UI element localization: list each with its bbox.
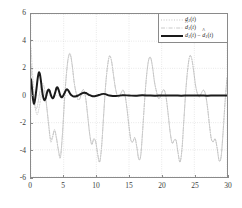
x-tickmark (129, 175, 130, 178)
x-tickmark (228, 175, 229, 178)
x-tickmark (162, 175, 163, 178)
x-tick-label: 30 (216, 182, 240, 190)
y-tickmark (30, 13, 33, 14)
legend-item-error: d1(t) − d1(t) (161, 32, 224, 40)
y-tickmark (30, 123, 33, 124)
x-tick-label: 25 (183, 182, 207, 190)
y-tick-label: -6 (4, 174, 26, 182)
y-tickmark (30, 150, 33, 151)
y-tickmark (30, 178, 33, 179)
x-tickmark (195, 175, 196, 178)
x-tick-label: 5 (51, 182, 75, 190)
y-tickmark (30, 40, 33, 41)
y-tick-label: 0 (4, 92, 26, 100)
y-tick-label: 6 (4, 9, 26, 17)
x-tickmark (63, 175, 64, 178)
series-d1(t)-d1hat(t) (31, 72, 227, 103)
series-d1(t) (31, 48, 227, 162)
y-tickmark (30, 68, 33, 69)
y-tick-label: -2 (4, 119, 26, 127)
y-tick-label: 4 (4, 37, 26, 45)
x-tick-label: 20 (150, 182, 174, 190)
x-tick-label: 0 (18, 182, 42, 190)
chart-legend: d1(t) d1(t) d1(t) − d1(t) (158, 13, 228, 43)
y-tickmark (30, 95, 33, 96)
legend-swatch-solid-icon (161, 32, 183, 40)
x-tick-label: 10 (84, 182, 108, 190)
x-tick-label: 15 (117, 182, 141, 190)
x-tickmark (96, 175, 97, 178)
y-tick-label: 2 (4, 64, 26, 72)
chart-figure: 0510152025306420-2-4-6 d1(t) d1(t) (0, 0, 242, 208)
series-d1hat(t) (31, 53, 227, 162)
y-tick-label: -4 (4, 147, 26, 155)
legend-label-error: d1(t) − d1(t) (185, 31, 213, 41)
legend-swatch-dotted-icon (161, 16, 183, 24)
legend-swatch-dashdot-icon (161, 24, 183, 32)
